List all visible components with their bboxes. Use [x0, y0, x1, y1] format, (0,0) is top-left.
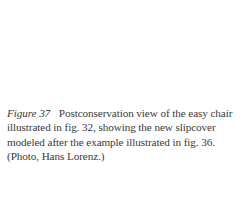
figure-label: Figure 37	[7, 107, 50, 119]
figure-caption: Figure 37 Postconservation view of the e…	[7, 106, 241, 163]
